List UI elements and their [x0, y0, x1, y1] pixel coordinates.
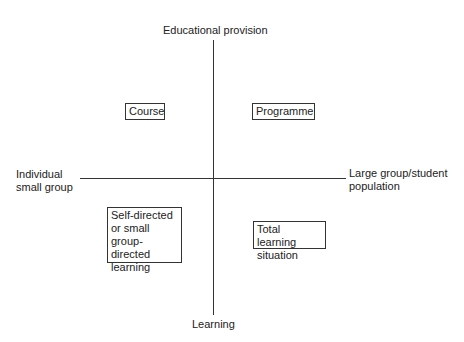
axis-label-right-line2: population	[349, 180, 447, 193]
quadrant-box-course: Course	[125, 103, 165, 120]
quadrant-box-programme: Programme	[252, 103, 315, 120]
axis-label-right-line1: Large group/student	[349, 167, 447, 180]
axis-label-left-line1: Individual	[16, 168, 73, 181]
self-directed-line2: or small	[111, 222, 178, 235]
self-directed-line4: learning	[111, 261, 178, 274]
self-directed-line1: Self-directed	[111, 209, 178, 222]
axis-label-bottom: Learning	[192, 318, 235, 331]
axis-label-top: Educational provision	[163, 24, 268, 37]
axis-label-left-line2: small group	[16, 181, 73, 194]
self-directed-line3: group-directed	[111, 235, 178, 261]
axis-label-right: Large group/student population	[349, 167, 447, 193]
quadrant-box-total-learning: Total learning situation	[253, 221, 326, 249]
axis-label-left: Individual small group	[16, 168, 73, 194]
horizontal-axis-line	[80, 178, 346, 179]
total-learning-line2: situation	[257, 249, 322, 262]
quadrant-box-self-directed: Self-directed or small group-directed le…	[107, 207, 182, 263]
total-learning-line1: Total learning	[257, 223, 322, 249]
